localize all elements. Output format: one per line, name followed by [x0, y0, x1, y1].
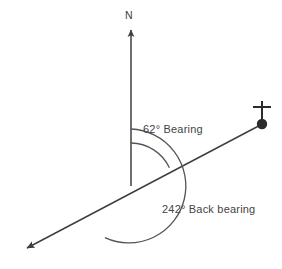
bearing-diagram-svg [0, 0, 282, 269]
back-bearing-label: 242° Back bearing [162, 203, 255, 215]
north-label: N [125, 9, 133, 21]
survey-station-icon [253, 101, 271, 129]
bearing-line [27, 126, 260, 249]
bearing-label: 62° Bearing [143, 123, 203, 135]
bearing-arc [131, 143, 169, 168]
diagram-canvas: N 62° Bearing 242° Back bearing [0, 0, 282, 269]
